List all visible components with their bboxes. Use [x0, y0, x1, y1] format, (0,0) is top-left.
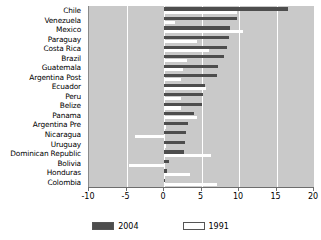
bar-row	[89, 35, 314, 45]
bar-1991	[164, 78, 181, 81]
bar-row	[89, 111, 314, 121]
x-tick-label: 20	[308, 192, 318, 201]
bar-row	[89, 130, 314, 140]
bar-row	[89, 178, 314, 187]
bar-2004	[164, 26, 230, 29]
x-tick-label: -5	[122, 192, 130, 201]
x-tick	[276, 187, 277, 191]
category-label: Argentina Pre	[0, 120, 84, 130]
category-label: Peru	[0, 92, 84, 102]
category-label: Panama	[0, 111, 84, 121]
category-label: Dominican Republic	[0, 149, 84, 159]
x-tick	[201, 187, 202, 191]
bar-1991	[164, 183, 217, 186]
bar-row	[89, 25, 314, 35]
x-tick-label: 5	[198, 192, 203, 201]
legend-item[interactable]: 2004	[92, 222, 138, 231]
bar-2004	[164, 55, 224, 58]
bar-row	[89, 82, 314, 92]
bar-2004	[164, 141, 185, 144]
category-axis-labels: ChileVenezuelaMexicoParaguayCosta RicaBr…	[0, 6, 84, 187]
category-label: Mexico	[0, 25, 84, 35]
bar-row	[89, 73, 314, 83]
bar-row	[89, 44, 314, 54]
bar-1991	[164, 21, 175, 24]
bar-2004	[164, 103, 202, 106]
category-label: Paraguay	[0, 35, 84, 45]
bar-2004	[164, 122, 188, 125]
category-label: Uruguay	[0, 139, 84, 149]
bar-2004	[164, 17, 237, 20]
x-tick	[88, 187, 89, 191]
category-label: Argentina Post	[0, 73, 84, 83]
dark-filled-swatch	[92, 222, 114, 230]
bar-2004	[164, 179, 165, 182]
x-tick-label: 0	[160, 192, 165, 201]
bar-row	[89, 168, 314, 178]
bar-1991	[164, 30, 243, 33]
x-tick	[313, 187, 314, 191]
bar-1991	[164, 97, 181, 100]
bar-1991	[164, 106, 181, 109]
category-label: Costa Rica	[0, 44, 84, 54]
bar-row	[89, 149, 314, 159]
bar-row	[89, 101, 314, 111]
bar-rows	[89, 6, 314, 187]
bar-2004	[164, 150, 184, 153]
bar-row	[89, 54, 314, 64]
bar-1991	[164, 154, 211, 157]
bar-2004	[164, 65, 218, 68]
x-tick	[126, 187, 127, 191]
bar-1991	[164, 116, 197, 119]
bar-1991	[164, 144, 166, 147]
category-label: Honduras	[0, 168, 84, 178]
plot-area	[88, 6, 314, 187]
x-tick-label: 10	[233, 192, 243, 201]
category-label: Colombia	[0, 178, 84, 188]
bar-2004	[164, 93, 203, 96]
bar-1991	[164, 173, 190, 176]
legend-label: 2004	[118, 222, 138, 231]
bar-row	[89, 63, 314, 73]
bar-1991	[164, 40, 197, 43]
bar-2004	[164, 84, 205, 87]
category-label: Bolivia	[0, 159, 84, 169]
legend-label: 1991	[209, 222, 229, 231]
x-tick-label: -10	[81, 192, 94, 201]
category-label: Ecuador	[0, 82, 84, 92]
bar-2004	[164, 160, 169, 163]
bar-1991	[135, 135, 164, 138]
bar-2004	[164, 46, 227, 49]
bar-2004	[164, 169, 167, 172]
bar-2004	[164, 131, 186, 134]
bar-2004	[164, 36, 229, 39]
white-outlined-swatch	[183, 222, 205, 230]
bar-chart: ChileVenezuelaMexicoParaguayCosta RicaBr…	[0, 0, 321, 240]
category-label: Belize	[0, 101, 84, 111]
category-label: Guatemala	[0, 63, 84, 73]
category-label: Brazil	[0, 54, 84, 64]
bar-1991	[164, 68, 183, 71]
bar-row	[89, 139, 314, 149]
bar-2004	[164, 7, 288, 10]
bar-row	[89, 120, 314, 130]
chart-legend: 20041991	[0, 218, 321, 234]
bar-2004	[164, 112, 194, 115]
bar-row	[89, 16, 314, 26]
legend-item[interactable]: 1991	[183, 222, 229, 231]
bar-1991	[164, 59, 187, 62]
bar-row	[89, 6, 314, 16]
bar-1991	[164, 49, 209, 52]
bar-1991	[129, 164, 164, 167]
x-tick	[163, 187, 164, 191]
bar-row	[89, 159, 314, 169]
bar-1991	[164, 11, 237, 14]
category-label: Chile	[0, 6, 84, 16]
bar-1991	[164, 87, 206, 90]
category-label: Nicaragua	[0, 130, 84, 140]
bar-2004	[164, 74, 217, 77]
x-tick-label: 15	[270, 192, 280, 201]
category-label: Venezuela	[0, 16, 84, 26]
bar-1991	[164, 125, 166, 128]
bar-row	[89, 92, 314, 102]
